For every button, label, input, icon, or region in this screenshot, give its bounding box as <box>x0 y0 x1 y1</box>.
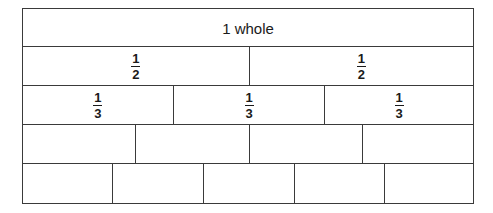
cell-quarter <box>249 124 363 165</box>
cell-fifth <box>203 163 295 204</box>
whole-label: 1 whole <box>222 20 274 37</box>
cell-third: 1 3 <box>173 85 326 126</box>
cell-third: 1 3 <box>22 85 174 126</box>
row-whole: 1 whole <box>22 9 474 48</box>
numerator: 1 <box>94 91 101 104</box>
row-fifths <box>22 164 474 204</box>
numerator: 1 <box>132 52 139 65</box>
numerator: 1 <box>245 91 252 104</box>
cell-half: 1 2 <box>249 46 475 87</box>
cell-fifth <box>384 163 474 204</box>
cell-third: 1 3 <box>324 85 474 126</box>
fraction-label: 1 2 <box>357 52 366 81</box>
fraction-wall: 1 whole 1 2 1 2 1 3 <box>22 9 474 203</box>
numerator: 1 <box>358 52 365 65</box>
cell-fifth <box>112 163 204 204</box>
fraction-label: 1 2 <box>131 52 140 81</box>
fraction-label: 1 3 <box>93 91 102 120</box>
cell-quarter <box>362 124 474 165</box>
cell-fifth <box>22 163 113 204</box>
row-quarters <box>22 125 474 165</box>
denominator: 2 <box>358 68 365 81</box>
cell-quarter <box>135 124 250 165</box>
denominator: 3 <box>94 107 101 120</box>
denominator: 3 <box>245 107 252 120</box>
fraction-label: 1 3 <box>395 91 404 120</box>
denominator: 2 <box>132 68 139 81</box>
cell-half: 1 2 <box>22 46 250 87</box>
fraction-label: 1 3 <box>245 91 254 120</box>
denominator: 3 <box>396 107 403 120</box>
cell-whole: 1 whole <box>22 8 474 48</box>
numerator: 1 <box>396 91 403 104</box>
row-thirds: 1 3 1 3 1 3 <box>22 86 474 126</box>
cell-fifth <box>294 163 385 204</box>
cell-quarter <box>22 124 136 165</box>
row-halves: 1 2 1 2 <box>22 47 474 87</box>
